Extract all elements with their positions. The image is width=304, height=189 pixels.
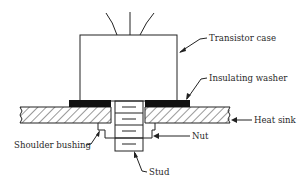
label-shoulder-bushing: Shoulder bushing <box>14 140 92 150</box>
leader-heat-sink <box>231 117 252 123</box>
heat-sink <box>20 107 230 123</box>
transistor-mounting-diagram: Transistor case Insulating washer Heat s… <box>0 0 304 189</box>
transistor-case <box>80 35 177 101</box>
label-nut: Nut <box>192 131 209 141</box>
label-stud: Stud <box>149 167 170 177</box>
transistor-leads <box>106 12 154 35</box>
label-insulating-washer: Insulating washer <box>209 73 288 83</box>
leader-insulating-washer <box>186 78 207 100</box>
leader-transistor-case <box>179 38 207 53</box>
label-transistor-case: Transistor case <box>209 33 276 43</box>
stud <box>115 101 143 151</box>
leader-stud <box>134 151 147 172</box>
leader-nut <box>153 133 190 139</box>
shoulder-bushing <box>98 123 155 130</box>
label-heat-sink: Heat sink <box>254 115 297 125</box>
